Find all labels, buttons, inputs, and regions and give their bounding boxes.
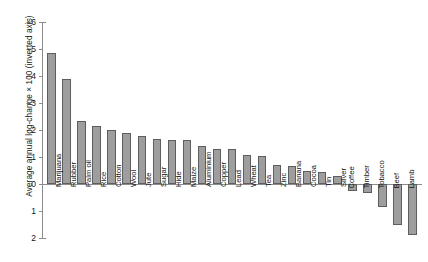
bar-beef xyxy=(393,184,402,225)
y-tick-mark xyxy=(39,130,43,131)
category-label-palm-oil: Palm oil xyxy=(85,160,93,187)
bar-chart: Average annual log-change × 100 (inverte… xyxy=(0,0,428,262)
category-label-jute: Jute xyxy=(145,173,153,187)
category-label-hide: Hide xyxy=(175,171,183,187)
category-label-rubber: Rubber xyxy=(70,162,78,187)
y-tick-label: −4 xyxy=(26,72,36,81)
y-tick-label: −6 xyxy=(26,18,36,27)
category-label-banana: Banana xyxy=(295,161,303,187)
y-tick-mark xyxy=(39,211,43,212)
y-tick-mark xyxy=(39,49,43,50)
category-label-coffee: Coffee xyxy=(348,166,356,188)
category-label-copper: Copper xyxy=(220,162,228,187)
y-tick-label: 0 xyxy=(31,180,36,189)
category-label-maize: Maize xyxy=(190,167,198,187)
category-label-cocoa: Cocoa xyxy=(310,165,318,187)
category-label-marijuana: Marijuana xyxy=(55,154,63,187)
category-label-beef: Beef xyxy=(393,173,401,189)
category-label-tobacco: Tobacco xyxy=(378,160,386,188)
y-tick-label: −5 xyxy=(26,45,36,54)
category-label-cotton: Cotton xyxy=(115,165,123,187)
y-tick-label: 1 xyxy=(31,207,36,216)
y-tick-mark xyxy=(39,184,43,185)
category-label-lamb: Lamb xyxy=(408,170,416,189)
category-label-aluminium: Aluminium xyxy=(205,152,213,187)
y-tick-mark xyxy=(39,157,43,158)
y-tick-mark xyxy=(39,238,43,239)
y-tick-mark xyxy=(39,103,43,104)
y-tick-label: −2 xyxy=(26,126,36,135)
category-label-rice: Rice xyxy=(100,172,108,187)
y-tick-label: −3 xyxy=(26,99,36,108)
y-tick-label: −1 xyxy=(26,153,36,162)
category-label-wheat: Wheat xyxy=(250,165,258,187)
category-label-timber: Timber xyxy=(363,165,371,188)
y-tick-label: 2 xyxy=(31,234,36,243)
category-label-wool: Wool xyxy=(130,170,138,187)
y-tick-mark xyxy=(39,22,43,23)
category-label-tea: Tea xyxy=(265,175,273,187)
category-label-tin: Tin xyxy=(325,177,333,187)
category-label-zinc: Zinc xyxy=(280,173,288,187)
bar-lamb xyxy=(408,184,417,235)
category-label-sugar: Sugar xyxy=(160,167,168,187)
category-label-lead: Lead xyxy=(235,170,243,187)
y-tick-mark xyxy=(39,76,43,77)
